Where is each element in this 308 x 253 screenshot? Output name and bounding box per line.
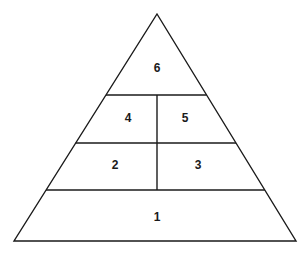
pyramid-triangle-outline xyxy=(14,14,296,241)
segment-label-5: 5 xyxy=(182,112,189,124)
pyramid-diagram: 1 2 3 4 5 6 xyxy=(0,0,308,253)
segment-label-3: 3 xyxy=(195,159,202,171)
segment-label-1: 1 xyxy=(154,211,161,223)
segment-label-2: 2 xyxy=(112,159,119,171)
segment-label-6: 6 xyxy=(154,62,161,74)
segment-label-4: 4 xyxy=(125,112,132,124)
